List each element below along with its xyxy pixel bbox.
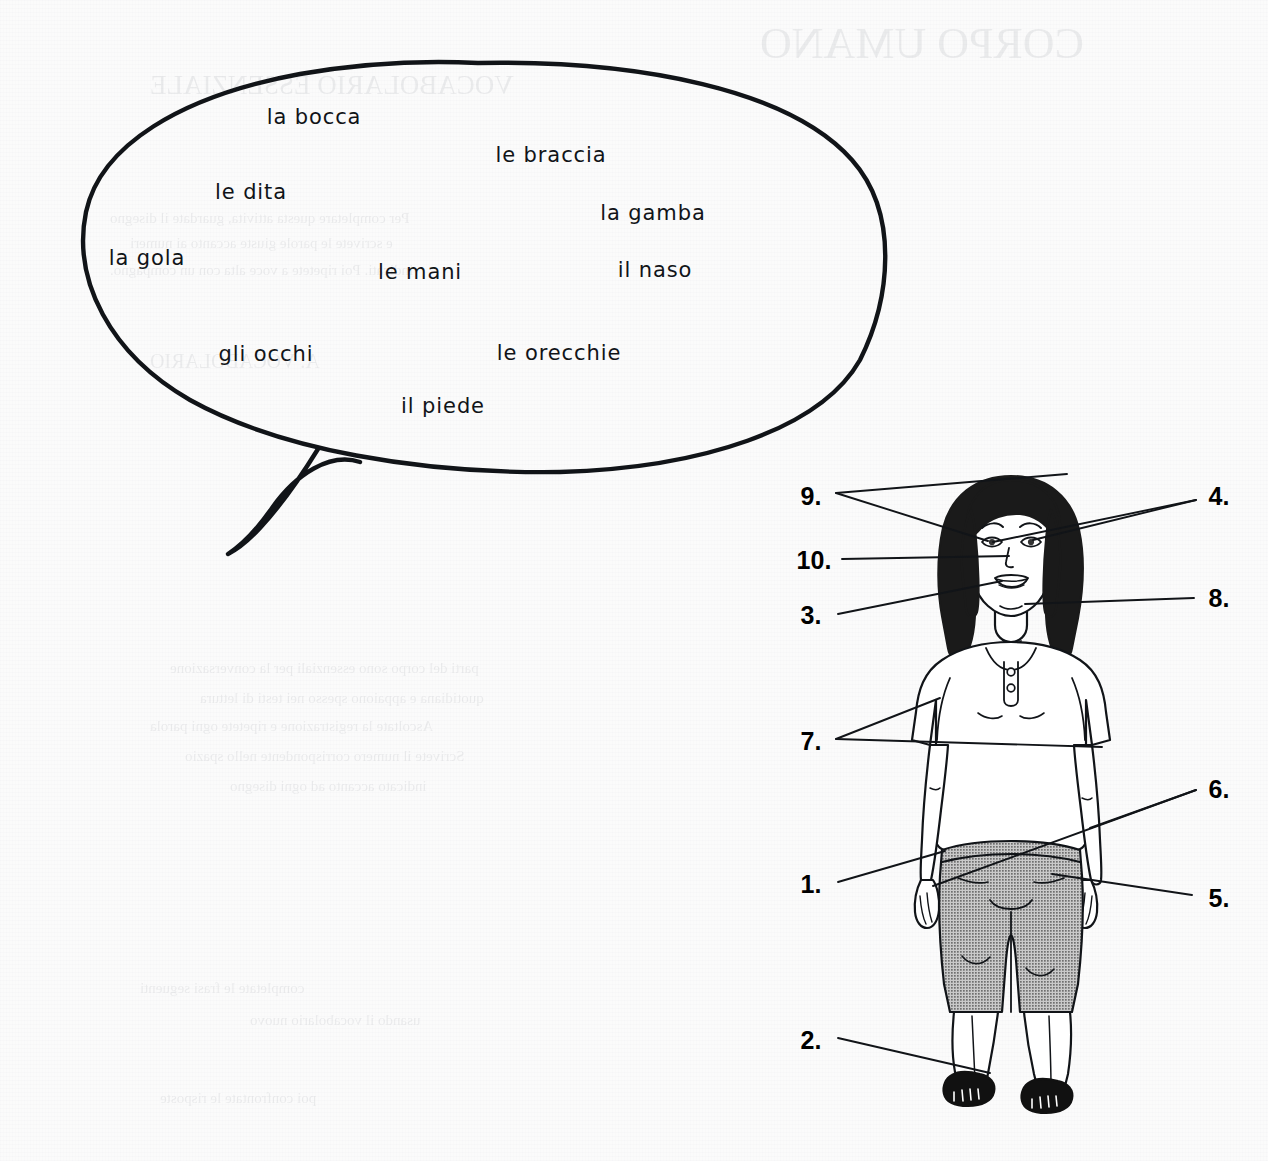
pupil-left: [989, 539, 995, 545]
shirt-button-bottom: [1007, 684, 1015, 692]
shirt-button-top: [1007, 668, 1015, 676]
figure-layer: [0, 0, 1268, 1161]
woman-figure-svg: [0, 0, 1268, 1161]
pupil-right: [1028, 539, 1034, 545]
worksheet-page: VOCABOLARIO ESSENZIALECORPO UMANOPer com…: [0, 0, 1268, 1161]
hand-left: [915, 880, 939, 928]
sandal-right: [1021, 1079, 1072, 1113]
sandal-left: [943, 1072, 994, 1106]
